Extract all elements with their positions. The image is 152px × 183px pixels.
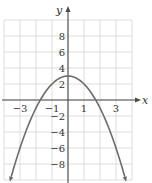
y-axis-arrow-icon xyxy=(66,6,71,12)
x-tick-label: −3 xyxy=(13,103,28,114)
x-axis-label: x xyxy=(142,94,149,107)
y-tick-label: 2 xyxy=(59,79,65,90)
parabola-chart: −3−1138642−2−4−6−8 x y xyxy=(0,0,152,183)
y-tick-label: −6 xyxy=(50,143,65,154)
y-tick-label: 4 xyxy=(59,63,65,74)
x-tick-label: 1 xyxy=(81,103,87,114)
y-tick-label: −4 xyxy=(50,127,65,138)
y-axis-label: y xyxy=(55,4,63,17)
y-tick-label: −8 xyxy=(50,159,65,170)
curve-arrow-icon xyxy=(9,176,13,181)
x-axis-arrow-icon xyxy=(135,98,141,103)
x-tick-label: 3 xyxy=(113,103,119,114)
y-tick-label: 8 xyxy=(59,31,65,42)
y-tick-label: 6 xyxy=(59,47,65,58)
curve-arrow-icon xyxy=(123,176,127,181)
y-tick-label: −2 xyxy=(50,111,65,122)
axes xyxy=(2,6,141,183)
